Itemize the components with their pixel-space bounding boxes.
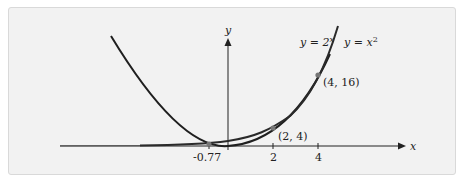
x-tick-label-2: 2 [270, 151, 277, 164]
intersection-point-2-4 [270, 125, 275, 130]
chart-svg: x y -0.77 2 4 (2, 4) (4, 16) y = 2x y = … [0, 0, 463, 188]
x-tick-label--0.77: -0.77 [193, 151, 221, 164]
x-axis-arrow-icon [398, 143, 406, 150]
point-label-2-4: (2, 4) [278, 130, 308, 143]
x-axis-label: x [410, 140, 417, 153]
intersection-point-4-16 [315, 72, 320, 77]
x-tick-label-4: 4 [315, 151, 322, 164]
intersection-point--0.77 [206, 141, 211, 146]
point-label-4-16: (4, 16) [323, 76, 360, 89]
y-axis-arrow-icon [225, 38, 232, 46]
legend-x-squared: y = x2 [343, 35, 378, 49]
y-axis-label: y [224, 24, 232, 37]
legend-2-pow-x: y = 2x [299, 35, 334, 49]
